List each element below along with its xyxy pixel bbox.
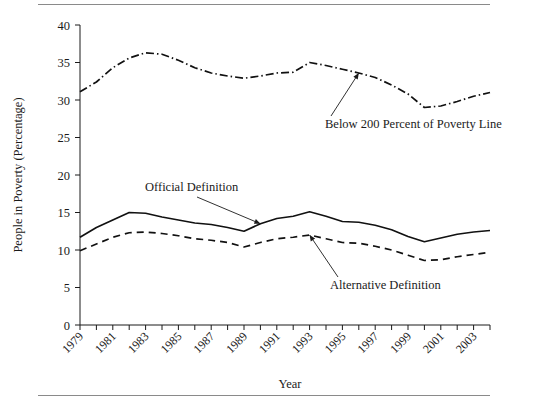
x-tick-label: 2001: [420, 329, 447, 356]
y-tick-label: 40: [58, 19, 71, 33]
annotation-arrow-head: [353, 73, 358, 79]
x-tick-label: 1987: [190, 329, 217, 356]
x-tick-label: 1999: [387, 329, 414, 356]
series-group: [80, 53, 490, 261]
x-tick-label: 1983: [125, 329, 152, 356]
annotation-label: Official Definition: [145, 180, 239, 194]
y-tick-label: 0: [64, 319, 70, 333]
annotation-leader-line: [197, 197, 260, 224]
series-line-alternative-definition: [80, 232, 490, 261]
annotation-leader-line: [310, 235, 338, 277]
y-tick-label: 35: [58, 56, 71, 70]
y-tick-label: 5: [64, 281, 70, 295]
series-line-below-200-percent-of-poverty-line: [80, 53, 490, 108]
figure-container: 0510152025303540 19791981198319851987198…: [0, 0, 541, 411]
annotation-label: Alternative Definition: [330, 278, 441, 292]
x-tick-label: 1979: [59, 329, 86, 356]
y-tick-label: 20: [58, 169, 71, 183]
annotation-leader-line: [331, 73, 359, 116]
x-tick-label-group: 1979198119831985198719891991199319951997…: [59, 329, 479, 356]
y-tick-label: 25: [58, 131, 71, 145]
x-tick-label: 1985: [158, 329, 185, 356]
x-axis-title: Year: [278, 377, 302, 391]
y-tick-label: 10: [58, 244, 71, 258]
x-tick-label: 1993: [289, 329, 316, 356]
y-tick-group: 0510152025303540: [58, 19, 81, 333]
x-tick-label: 1995: [322, 329, 349, 356]
x-axis: 1979198119831985198719891991199319951997…: [59, 325, 490, 356]
y-axis: 0510152025303540: [58, 19, 81, 333]
y-tick-label: 15: [58, 206, 71, 220]
y-tick-label: 30: [58, 94, 71, 108]
x-tick-label: 1989: [223, 329, 250, 356]
line-chart: 0510152025303540 19791981198319851987198…: [0, 0, 541, 411]
x-tick-label: 2003: [453, 329, 480, 356]
y-axis-title: People in Poverty (Percentage): [11, 97, 25, 252]
x-tick-label: 1981: [92, 329, 119, 356]
x-tick-label: 1997: [354, 329, 381, 356]
annotation-label: Below 200 Percent of Poverty Line: [325, 117, 502, 131]
x-tick-label: 1991: [256, 329, 283, 356]
